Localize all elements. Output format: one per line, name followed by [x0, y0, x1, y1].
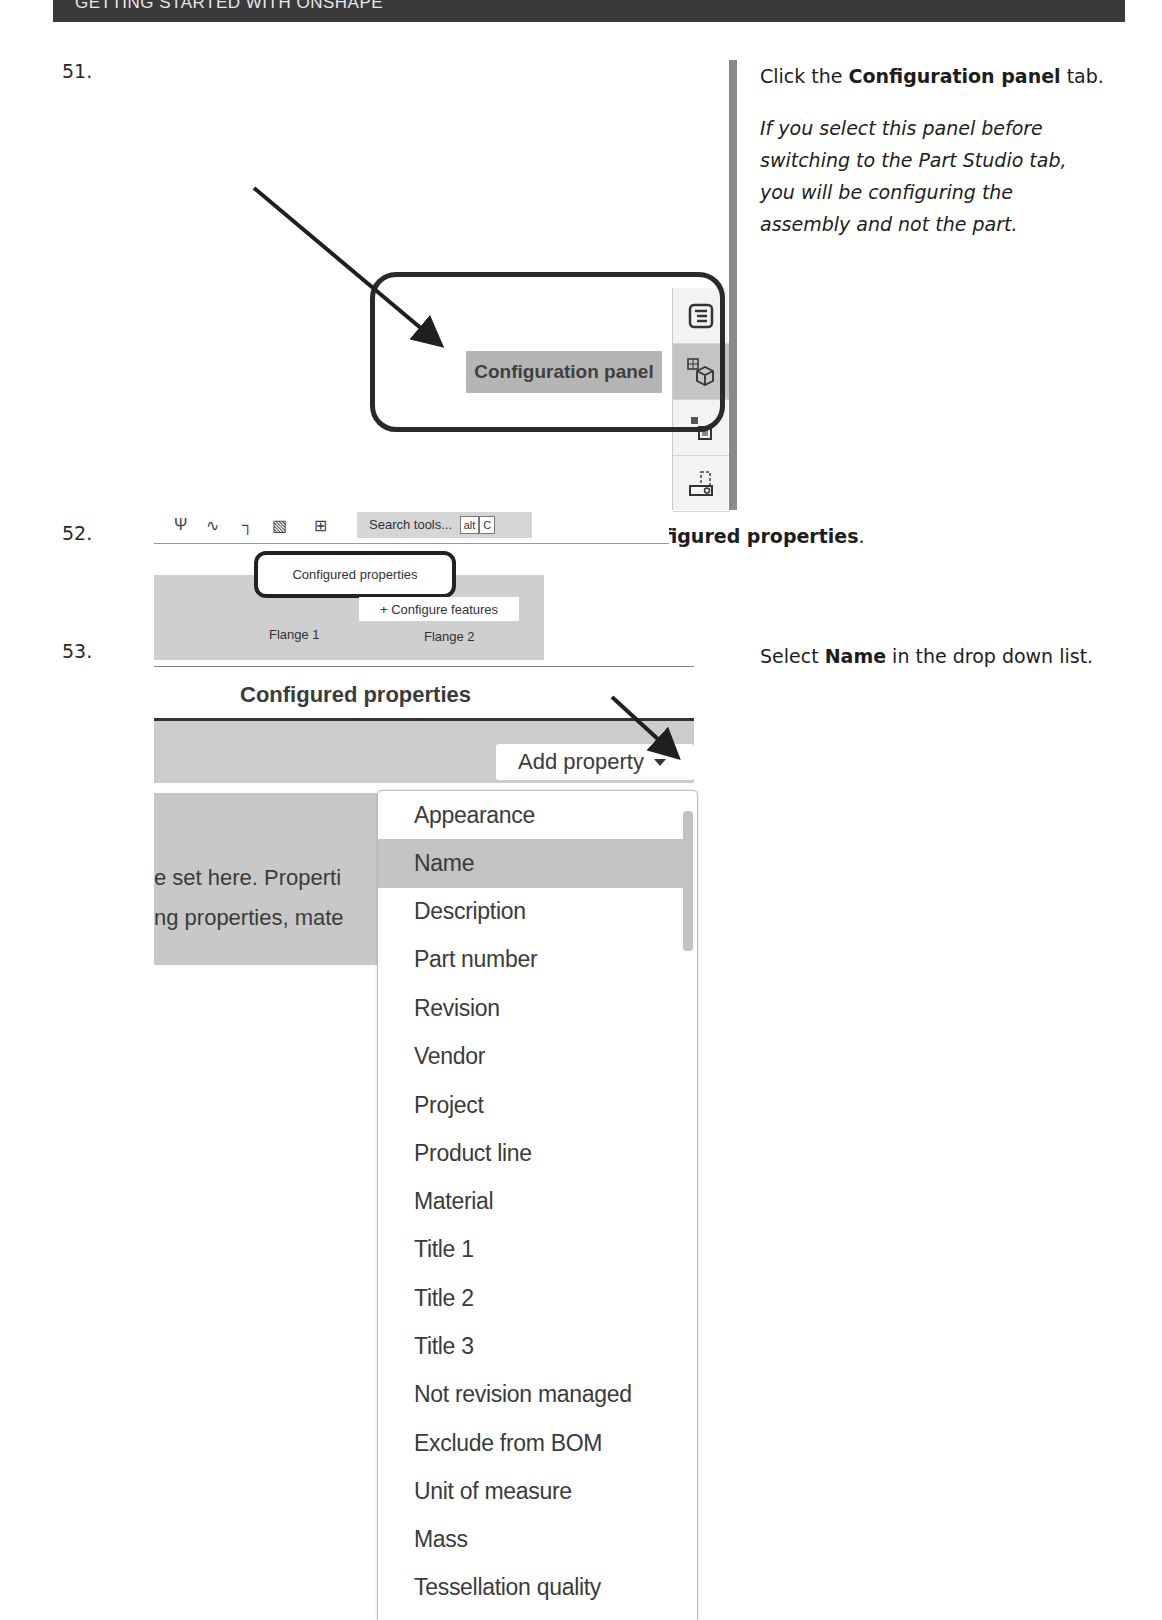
properties-help-text: e set here. Properti ng properties, mate	[154, 858, 344, 938]
step-number-53: 53.	[62, 640, 92, 662]
step-51-note: If you select this panel before switchin…	[760, 112, 1105, 240]
dropdown-item-unit-of-measure[interactable]: Unit of measure	[378, 1467, 684, 1516]
dropdown-item-exclude-from-bom[interactable]: Exclude from BOM	[378, 1419, 684, 1468]
instruction-emphasis: Name	[825, 645, 886, 667]
dropdown-scrollbar[interactable]	[683, 811, 693, 951]
button-label: + Configure features	[380, 602, 498, 617]
instruction-text: in the drop down list.	[886, 645, 1093, 667]
add-property-dropdown[interactable]: Add property	[496, 744, 694, 780]
configured-properties-menu-item[interactable]: Configured properties	[254, 551, 456, 598]
step-number-51: 51.	[62, 60, 92, 82]
instruction-text: .	[859, 525, 865, 547]
divider	[154, 666, 694, 667]
dropdown-item-project[interactable]: Project	[378, 1081, 684, 1130]
thicken-tool-icon[interactable]: ┐	[242, 516, 253, 534]
enclose-tool-icon[interactable]: ▧	[272, 516, 287, 535]
callout-highlight-box	[370, 272, 725, 432]
feature-toolbar: Ψ ∿ ┐ ▧ ⊞ Search tools... altC	[154, 510, 669, 544]
dropdown-item-material[interactable]: Material	[378, 1177, 684, 1226]
configured-properties-title: Configured properties	[240, 682, 471, 708]
dropdown-item-appearance[interactable]: Appearance	[378, 791, 684, 840]
step-53-instruction: Select Name in the drop down list.	[760, 640, 1105, 672]
shortcut-key-alt: alt	[460, 516, 480, 534]
dropdown-item-product-line[interactable]: Product line	[378, 1129, 684, 1178]
dropdown-item-vendor[interactable]: Vendor	[378, 1032, 684, 1081]
search-placeholder: Search tools...	[369, 517, 452, 532]
mate-connector-icon	[686, 469, 716, 499]
loft-tool-icon[interactable]: Ψ	[174, 516, 187, 534]
help-text-line: e set here. Properti	[154, 858, 344, 898]
chapter-title: GETTING STARTED WITH ONSHAPE	[75, 0, 383, 12]
dropdown-item-not-revision-managed[interactable]: Not revision managed	[378, 1370, 684, 1419]
dropdown-item-part-number[interactable]: Part number	[378, 935, 684, 984]
property-dropdown-menu: Appearance Name Description Part number …	[377, 790, 698, 1620]
caret-down-icon	[654, 759, 666, 766]
shortcut-key-c: C	[479, 516, 495, 534]
configure-features-button[interactable]: + Configure features	[359, 597, 519, 621]
dropdown-item-title-2[interactable]: Title 2	[378, 1274, 684, 1323]
sweep-tool-icon[interactable]: ∿	[206, 516, 219, 535]
screenshot-edge-divider	[729, 60, 737, 510]
instruction-emphasis: Configuration panel	[849, 65, 1061, 87]
chapter-header: GETTING STARTED WITH ONSHAPE	[53, 0, 1125, 22]
dropdown-item-description[interactable]: Description	[378, 887, 684, 936]
instruction-text: tab.	[1061, 65, 1104, 87]
add-feature-icon[interactable]: ⊞	[314, 516, 327, 535]
dropdown-item-name[interactable]: Name	[378, 839, 684, 888]
dropdown-item-mass[interactable]: Mass	[378, 1515, 684, 1564]
menu-item-label: Configured properties	[292, 567, 417, 582]
step-number-52: 52.	[62, 522, 92, 544]
search-tools-input[interactable]: Search tools... altC	[357, 512, 532, 538]
feature-tabs: Flange 1 Flange 2	[154, 627, 669, 660]
step-52-screenshot: Ψ ∿ ┐ ▧ ⊞ Search tools... altC Configure…	[154, 510, 669, 660]
mate-connector-tab[interactable]	[673, 456, 729, 512]
instruction-text: Select	[760, 645, 825, 667]
dropdown-item-revision[interactable]: Revision	[378, 984, 684, 1033]
add-property-label: Add property	[518, 749, 644, 775]
step-51-instruction: Click the Configuration panel tab. If yo…	[760, 60, 1105, 240]
tab-flange-2[interactable]: Flange 2	[424, 629, 475, 644]
dropdown-item-title-1[interactable]: Title 1	[378, 1225, 684, 1274]
dropdown-item-tessellation-quality[interactable]: Tessellation quality	[378, 1563, 684, 1612]
help-text-line: ng properties, mate	[154, 898, 344, 938]
tab-flange-1[interactable]: Flange 1	[269, 627, 320, 642]
instruction-text: Click the	[760, 65, 849, 87]
dropdown-item-title-3[interactable]: Title 3	[378, 1322, 684, 1371]
